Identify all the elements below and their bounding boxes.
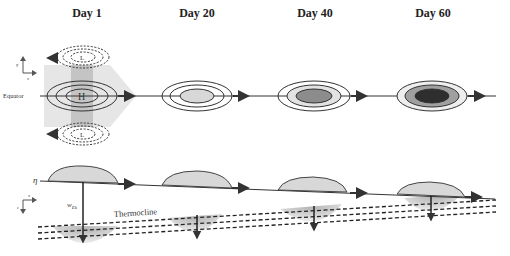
y-axis-label: y <box>16 62 19 67</box>
low-label-north: L <box>80 54 84 62</box>
bottom-panel: x z η Thermocline wEk <box>16 166 496 243</box>
top-panel: y x Equator H L L <box>3 46 496 145</box>
thermocline-depression-day1 <box>52 226 118 243</box>
high-label: H <box>78 91 85 102</box>
day60-contours <box>397 81 484 111</box>
surface-bump-day60 <box>397 182 465 197</box>
low-label-south: L <box>80 131 84 139</box>
z-axis-label: z <box>16 205 19 210</box>
equator-label: Equator <box>3 92 24 99</box>
diagram-canvas: y x Equator H L L <box>0 0 510 256</box>
eta-label: η <box>33 175 38 185</box>
day40-contours <box>278 81 366 111</box>
xy-axis-icon: y x <box>16 56 37 81</box>
x-axis-label-bottom: x <box>28 193 30 198</box>
thermocline-label: Thermocline <box>114 206 158 219</box>
surface-bump-day20 <box>162 171 232 188</box>
surface-bump-day1 <box>48 166 118 183</box>
surface-bump-day40 <box>278 177 347 192</box>
x-axis-label: x <box>27 76 29 81</box>
ekman-label: wEk <box>67 201 78 210</box>
xz-axis-icon: x z <box>16 193 37 214</box>
thermocline-depression-day40 <box>280 204 342 221</box>
day1-low-north: L <box>48 46 109 68</box>
